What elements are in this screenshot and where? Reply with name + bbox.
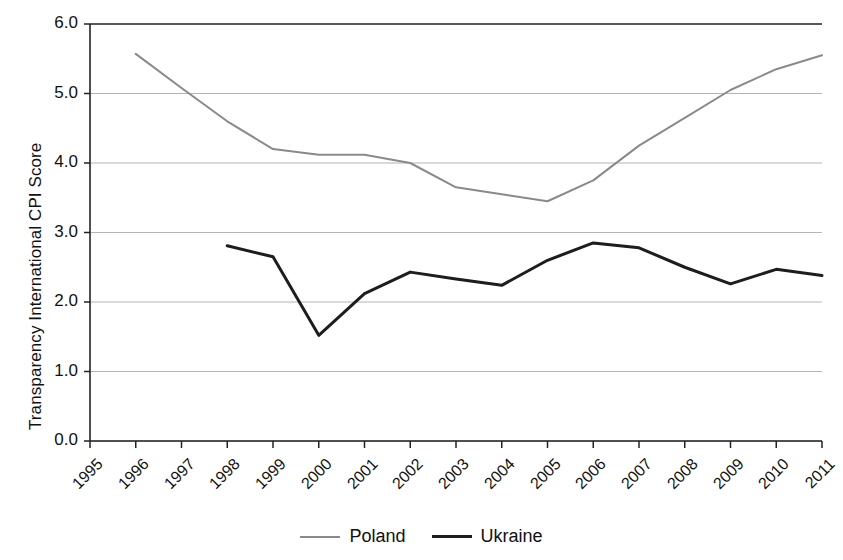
series-line-poland [136, 54, 822, 201]
legend-item-poland[interactable]: Poland [300, 526, 405, 547]
y-axis-title: Transparency International CPI Score [26, 143, 46, 430]
y-tick-label-0.0: 0.0 [34, 430, 78, 450]
legend-item-ukraine[interactable]: Ukraine [432, 526, 543, 547]
data-series [136, 54, 822, 335]
y-tick-label-3.0: 3.0 [34, 222, 78, 242]
axis-ticks [84, 24, 822, 448]
y-tick-label-1.0: 1.0 [34, 361, 78, 381]
y-tick-label-6.0: 6.0 [34, 13, 78, 33]
legend-label-ukraine: Ukraine [481, 526, 543, 547]
legend-line-swatch-ukraine [432, 535, 472, 538]
gridlines [90, 94, 822, 442]
legend-label-poland: Poland [349, 526, 405, 547]
y-tick-label-2.0: 2.0 [34, 291, 78, 311]
chart-legend: Poland Ukraine [0, 526, 843, 547]
y-tick-label-4.0: 4.0 [34, 152, 78, 172]
cpi-line-chart: Transparency International CPI Score 0.0… [0, 0, 843, 560]
y-tick-label-5.0: 5.0 [34, 83, 78, 103]
series-line-ukraine [227, 243, 822, 335]
legend-line-swatch-poland [300, 536, 340, 538]
